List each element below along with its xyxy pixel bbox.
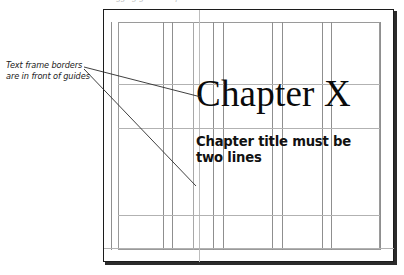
top-cut-text: dragging guides to position elements <box>104 0 294 2</box>
vertical-guide-0 <box>111 22 112 250</box>
horizontal-guide-1 <box>118 128 380 129</box>
chapter-title: Chapter X <box>196 74 351 114</box>
chapter-subtitle-line-1: Chapter title must be <box>196 134 356 150</box>
annotation-line-2: are in front of guides <box>6 71 102 82</box>
annotation-callout: Text frame borders are in front of guide… <box>6 60 102 82</box>
annotation-line-1: Text frame borders <box>6 60 102 71</box>
horizontal-guide-3 <box>104 248 394 249</box>
horizontal-guide-2 <box>118 215 380 216</box>
vertical-guide-10 <box>380 22 381 250</box>
chapter-subtitle: Chapter title must be two lines <box>196 134 356 166</box>
chapter-subtitle-line-2: two lines <box>196 150 356 166</box>
figure-canvas: dragging guides to position elements Cha… <box>0 0 404 275</box>
